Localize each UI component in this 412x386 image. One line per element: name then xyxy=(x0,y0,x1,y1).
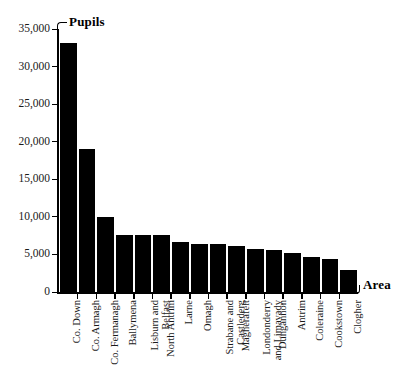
y-axis-tick xyxy=(52,29,57,30)
bar xyxy=(340,270,357,292)
category-label-line: North Antrim xyxy=(165,300,176,357)
x-axis-tick xyxy=(114,292,116,299)
bar-chart-figure: Pupils Area 05,00010,00015,00020,00025,0… xyxy=(0,0,412,386)
x-axis-tick xyxy=(152,292,154,299)
category-label-line: Coleraine xyxy=(314,300,325,341)
category-label-line: Co. Fermanagh xyxy=(109,300,120,365)
x-axis-category-label: Cookstown xyxy=(334,300,345,348)
y-axis-tick xyxy=(52,179,57,180)
bar-series xyxy=(59,29,358,292)
bar xyxy=(172,242,189,292)
bar xyxy=(97,217,114,292)
x-axis-tick xyxy=(339,292,341,299)
category-label-line: Larne xyxy=(183,300,194,324)
x-axis-category-labels: Co. DownCo. ArmaghCo. FermanaghBallymena… xyxy=(59,300,358,386)
x-axis-title: Area xyxy=(363,277,391,293)
x-axis-tick xyxy=(170,292,172,299)
bar xyxy=(191,244,208,292)
y-axis-tick-label: 25,000 xyxy=(18,98,50,110)
x-axis-category-label: Omagh xyxy=(203,300,214,331)
y-axis-tick xyxy=(52,292,57,293)
x-axis-tick xyxy=(320,292,322,299)
x-axis-tick xyxy=(77,292,79,299)
x-axis-category-label: Ballymena xyxy=(128,300,139,346)
y-axis-tick-label: 15,000 xyxy=(18,173,50,185)
x-axis-category-label: Larne xyxy=(184,300,195,324)
bar xyxy=(153,235,170,292)
y-axis-tick xyxy=(52,141,57,142)
category-label-line: Londonderry xyxy=(261,300,272,355)
category-label-line: Co. Down xyxy=(71,300,82,343)
y-axis-tick xyxy=(52,66,57,67)
x-axis-category-label: Co. Down xyxy=(72,300,83,343)
x-axis-category-label: Coleraine xyxy=(315,300,326,341)
x-axis-tick xyxy=(226,292,228,299)
y-axis-tick xyxy=(52,254,57,255)
y-axis-tick-label: 0 xyxy=(44,286,50,298)
category-label-line: Dungannon xyxy=(277,300,288,349)
y-axis-tick-label: 10,000 xyxy=(18,211,50,223)
bar xyxy=(303,257,320,292)
category-label-line: Clogher xyxy=(352,300,363,334)
bar xyxy=(135,235,152,292)
bar-slot xyxy=(96,29,115,292)
x-axis-tick xyxy=(208,292,210,299)
bar-slot xyxy=(283,29,302,292)
category-label-line: Co. Armagh xyxy=(90,300,101,351)
bar xyxy=(79,149,96,292)
category-label-line: Omagh xyxy=(202,300,213,331)
y-axis-title: Pupils xyxy=(69,14,105,30)
bar-slot xyxy=(209,29,228,292)
x-axis-tick xyxy=(301,292,303,299)
bar-slot xyxy=(59,29,78,292)
bar-slot xyxy=(227,29,246,292)
y-axis-tick-label: 35,000 xyxy=(18,23,50,35)
x-axis-tick xyxy=(264,292,266,299)
bar-slot xyxy=(302,29,321,292)
x-axis-category-label: Magherafelt xyxy=(241,300,252,351)
y-axis-tick xyxy=(52,216,57,217)
category-label-line: Antrim xyxy=(296,300,307,330)
x-axis-tick xyxy=(245,292,247,299)
bar xyxy=(60,43,77,292)
y-axis-tick-label: 30,000 xyxy=(18,61,50,73)
bar xyxy=(210,244,227,292)
x-axis-category-label: North Antrim xyxy=(166,300,177,357)
bar xyxy=(266,250,283,292)
x-axis-category-label: Dungannon xyxy=(278,300,289,349)
x-axis-tick xyxy=(96,292,98,299)
x-axis-tick xyxy=(282,292,284,299)
bar xyxy=(322,259,339,292)
bar xyxy=(284,253,301,292)
bar-slot xyxy=(152,29,171,292)
bar xyxy=(228,246,245,292)
bar-slot xyxy=(134,29,153,292)
x-axis-category-label: Clogher xyxy=(353,300,364,334)
x-axis-tick xyxy=(133,292,135,299)
x-axis-category-label: Antrim xyxy=(297,300,308,330)
category-label-line: Magherafelt xyxy=(240,300,251,351)
bar-slot xyxy=(171,29,190,292)
category-label-line: Ballymena xyxy=(127,300,138,346)
bar-slot xyxy=(321,29,340,292)
bar xyxy=(247,249,264,292)
x-axis-tick xyxy=(189,292,191,299)
x-axis-category-label: Co. Armagh xyxy=(91,300,102,351)
bar-slot xyxy=(339,29,358,292)
y-axis-tick-label: 5,000 xyxy=(24,248,50,260)
y-axis-tick xyxy=(52,104,57,105)
bar-slot xyxy=(265,29,284,292)
bar-slot xyxy=(78,29,97,292)
bar-slot xyxy=(246,29,265,292)
bar xyxy=(116,235,133,292)
category-label-line: Cookstown xyxy=(333,300,344,348)
y-axis-tick-label: 20,000 xyxy=(18,136,50,148)
bar-slot xyxy=(190,29,209,292)
bar-slot xyxy=(115,29,134,292)
category-label-line: Lisburn and xyxy=(149,300,160,350)
x-axis-category-label: Co. Fermanagh xyxy=(110,300,121,365)
category-label-line: Strabane and xyxy=(224,300,235,355)
